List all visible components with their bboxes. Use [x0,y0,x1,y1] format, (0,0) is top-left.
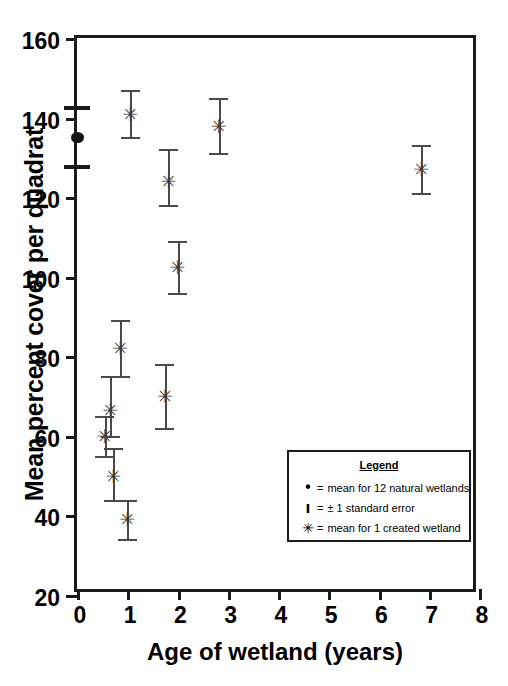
error-bar-cap-upper [118,500,137,502]
y-axis-tick: 140 [66,118,77,121]
error-bar-cap-lower [168,293,187,295]
y-axis-tick-label: 140 [22,108,60,135]
y-axis-tick-label: 60 [34,426,60,453]
x-axis-tick: 6 [379,589,382,600]
y-axis-tick: 20 [66,595,77,598]
created-wetland-mean-marker: ✳ [413,160,429,179]
legend-label: ± 1 standard error [327,502,414,514]
legend-row: ✳=mean for 1 created wetland [289,518,469,538]
error-bar-cap-lower [121,137,140,139]
scatter-plot-figure: Mean percent cover per quadrat 204060801… [0,0,508,686]
y-axis-tick-label: 120 [22,187,60,214]
legend-label: mean for 1 created wetland [327,522,460,534]
y-axis-tick: 160 [66,38,77,41]
legend-row: •=mean for 12 natural wetlands [289,478,469,498]
x-axis-tick-label: 5 [320,602,342,629]
error-bar-cap-lower [118,539,137,541]
y-axis-tick: 40 [66,515,77,518]
error-bar-cap-upper [168,241,187,243]
y-axis-title-container: Mean percent cover per quadrat [0,0,40,686]
y-axis-tick-label: 80 [34,346,60,373]
error-bar-cap-upper [209,98,228,100]
created-wetland-mean-marker: ✳ [102,400,118,419]
error-bar-cap-upper [412,145,431,147]
legend-rows: •=mean for 12 natural wetlandsI=± 1 stan… [289,478,469,538]
y-axis-tick-label: 160 [22,28,60,55]
error-bar-cap-lower [95,456,114,458]
legend-label: mean for 12 natural wetlands [327,482,469,494]
legend: Legend •=mean for 12 natural wetlandsI=±… [287,450,471,542]
error-bar-cap-upper [104,448,123,450]
natural-error-bar-cap-upper [64,106,90,110]
legend-symbol-icon: ✳ [300,520,316,536]
created-wetland-mean-marker: ✳ [105,466,121,485]
error-bar-cap-upper [159,149,178,151]
y-axis-tick: 80 [66,356,77,359]
x-axis-tick-label: 8 [471,602,493,629]
legend-symbol-icon: • [300,483,316,494]
x-axis-tick-label: 3 [220,602,242,629]
x-axis-title: Age of wetland (years) [74,638,476,666]
error-bar-cap-lower [209,153,228,155]
x-axis-tick-label: 7 [421,602,443,629]
x-axis-tick-label: 6 [371,602,393,629]
x-axis-tick: 7 [429,589,432,600]
x-axis-tick: 1 [127,589,130,600]
x-axis-tick-label: 2 [170,602,192,629]
error-bar-cap-upper [155,364,174,366]
created-wetland-mean-marker: ✳ [170,257,186,276]
x-axis-tick: 0 [77,589,80,600]
error-bar-cap-lower [111,376,130,378]
y-axis-tick-label: 40 [34,505,60,532]
x-axis-tick-label: 4 [270,602,292,629]
created-wetland-mean-marker: ✳ [160,172,176,191]
x-axis-tick: 2 [178,589,181,600]
x-axis-tick: 3 [228,589,231,600]
x-axis-tick: 4 [278,589,281,600]
legend-row: I=± 1 standard error [289,498,469,518]
natural-error-bar-cap-lower [64,165,90,169]
x-axis-tick: 8 [479,589,482,600]
legend-equals-sign: = [317,502,323,514]
x-axis-tick-label: 0 [69,602,91,629]
created-wetland-mean-marker: ✳ [119,510,135,529]
created-wetland-mean-marker: ✳ [211,116,227,135]
error-bar-cap-upper [111,320,130,322]
legend-symbol-icon: I [300,501,316,516]
x-axis-tick: 5 [328,589,331,600]
error-bar-cap-lower [101,436,120,438]
natural-wetland-mean-marker [71,132,84,143]
y-axis-tick: 100 [66,277,77,280]
legend-equals-sign: = [317,522,323,534]
error-bar-cap-upper [121,90,140,92]
created-wetland-mean-marker: ✳ [157,387,173,406]
legend-equals-sign: = [317,482,323,494]
created-wetland-mean-marker: ✳ [112,339,128,358]
y-axis-tick-label: 20 [34,585,60,612]
y-axis-tick: 120 [66,197,77,200]
legend-title: Legend [289,459,469,471]
error-bar-cap-lower [155,428,174,430]
created-wetland-mean-marker: ✳ [122,104,138,123]
y-axis-tick: 60 [66,436,77,439]
error-bar-cap-lower [159,205,178,207]
x-axis-tick-label: 1 [119,602,141,629]
y-axis-tick-label: 100 [22,267,60,294]
error-bar-cap-lower [412,193,431,195]
